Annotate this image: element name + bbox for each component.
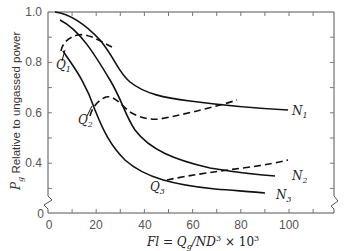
x-tick-label: 40	[138, 218, 152, 232]
chart: 1.0 0.8 0.6 0.4 0 0 20 40 60 80 100 Fl =…	[0, 0, 348, 251]
label-n2: N2	[291, 169, 308, 185]
x-ticks	[72, 12, 313, 213]
curves	[55, 12, 288, 193]
y-axis-title: Pg Relative to ungassed power	[9, 32, 25, 191]
label-n3: N3	[275, 188, 292, 204]
y-tick-label: 0.6	[25, 106, 42, 120]
y-tick-label: 0	[37, 207, 44, 221]
x-tick-label: 0	[46, 218, 53, 232]
x-tick-label: 80	[234, 218, 248, 232]
x-axis-title: Fl = Qg/ND3 × 103	[146, 234, 259, 251]
label-n1: N1	[291, 104, 308, 120]
y-tick-label: 0.8	[25, 55, 42, 69]
x-tick-label: 20	[89, 218, 103, 232]
label-q3: Q3	[150, 180, 165, 196]
curve-q2	[90, 97, 237, 120]
curve-labels: Q1 Q2 Q3 N1 N2 N3	[56, 50, 308, 204]
y-tick-labels: 1.0 0.8 0.6 0.4 0	[25, 5, 44, 221]
curve-q3	[167, 160, 288, 180]
y-tick-label: 0.4	[25, 156, 42, 170]
x-tick-label: 100	[279, 218, 299, 232]
x-tick-label: 60	[186, 218, 200, 232]
y-tick-label: 1.0	[25, 5, 42, 19]
x-tick-labels: 0 20 40 60 80 100	[46, 218, 300, 232]
